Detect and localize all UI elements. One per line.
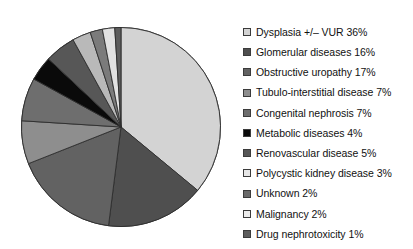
legend-item[interactable]: Metabolic diseases 4% [243, 123, 413, 143]
legend-item-label: Malignancy 2% [256, 209, 327, 220]
legend-item-label: Glomerular diseases 16% [256, 47, 375, 58]
legend-item-label: Dysplasia +/– VUR 36% [256, 27, 367, 38]
legend-item-label: Renovascular disease 5% [256, 148, 376, 159]
pie-slice-group [22, 28, 221, 227]
legend-swatch-icon [243, 129, 251, 137]
legend-swatch-icon [243, 230, 251, 238]
legend-item-label: Tubulo-interstitial disease 7% [256, 87, 391, 98]
legend-swatch-icon [243, 28, 251, 36]
legend-swatch-icon [243, 190, 251, 198]
legend-item[interactable]: Malignancy 2% [243, 204, 413, 224]
legend-item[interactable]: Obstructive uropathy 17% [243, 62, 413, 82]
legend-item[interactable]: Renovascular disease 5% [243, 143, 413, 163]
pie-chart-plot-area [20, 26, 222, 228]
legend-item[interactable]: Congenital nephrosis 7% [243, 103, 413, 123]
legend-item[interactable]: Polycystic kidney disease 3% [243, 163, 413, 183]
pie-chart-svg [20, 26, 222, 228]
legend-item[interactable]: Tubulo-interstitial disease 7% [243, 83, 413, 103]
legend-item-label: Metabolic diseases 4% [256, 128, 362, 139]
legend-swatch-icon [243, 89, 251, 97]
legend-item[interactable]: Glomerular diseases 16% [243, 42, 413, 62]
legend-item-label: Drug nephrotoxicity 1% [256, 229, 363, 240]
legend-item-label: Obstructive uropathy 17% [256, 67, 376, 78]
legend-item-label: Congenital nephrosis 7% [256, 108, 372, 119]
pie-chart-figure: Dysplasia +/– VUR 36%Glomerular diseases… [0, 0, 413, 249]
legend-item[interactable]: Dysplasia +/– VUR 36% [243, 22, 413, 42]
legend-item-label: Polycystic kidney disease 3% [256, 168, 392, 179]
legend-swatch-icon [243, 210, 251, 218]
legend-item[interactable]: Drug nephrotoxicity 1% [243, 224, 413, 244]
legend-swatch-icon [243, 109, 251, 117]
legend-swatch-icon [243, 149, 251, 157]
chart-legend: Dysplasia +/– VUR 36%Glomerular diseases… [243, 22, 413, 244]
legend-swatch-icon [243, 169, 251, 177]
legend-item-label: Unknown 2% [256, 188, 317, 199]
legend-swatch-icon [243, 68, 251, 76]
legend-swatch-icon [243, 48, 251, 56]
legend-item[interactable]: Unknown 2% [243, 184, 413, 204]
